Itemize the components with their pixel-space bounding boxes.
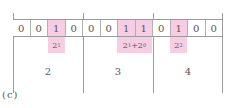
bit-cell-highlighted: 1	[48, 20, 66, 36]
annotation-group-3: 22	[170, 37, 187, 53]
annotation-plus-term: +2	[131, 41, 143, 50]
bit-cell: 0	[101, 20, 119, 36]
annotation-exponent: 2	[179, 42, 182, 48]
bit-cell-highlighted: 1	[118, 20, 136, 36]
group-value-1: 2	[38, 66, 58, 77]
annotation-group-1: 21	[48, 37, 65, 53]
bit-cell-highlighted: 1	[171, 20, 189, 36]
annotation-exponent: 1	[57, 42, 60, 48]
group-value-3: 4	[178, 66, 198, 77]
bit-cell: 0	[153, 20, 171, 36]
bit-cell: 0	[66, 20, 84, 36]
figure-caption: (c)	[2, 89, 18, 100]
annotation-exponent-2: 0	[143, 42, 146, 48]
bit-cell: 0	[31, 20, 49, 36]
bit-cell: 0	[188, 20, 206, 36]
annotation-group-2: 21+20	[117, 37, 152, 53]
bit-cell: 0	[206, 20, 223, 36]
bit-cell-highlighted: 1	[136, 20, 154, 36]
bit-cell: 0	[83, 20, 101, 36]
group-value-2: 3	[108, 66, 128, 77]
bit-row: 0 0 1 0 0 0 1 1 0 1 0 0	[13, 19, 222, 37]
group-divider-right	[222, 13, 223, 93]
bit-cell: 0	[13, 20, 31, 36]
